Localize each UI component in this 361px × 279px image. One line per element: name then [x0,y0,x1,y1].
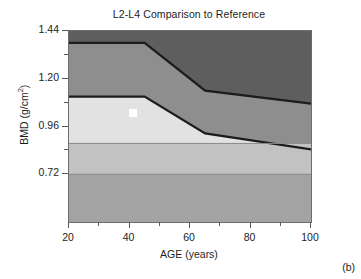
x-tick-minor [280,222,281,226]
chart-title: L2-L4 Comparison to Reference [68,8,310,20]
y-tick-major [62,30,68,31]
x-tick-major [250,222,251,228]
y-axis-title-superscript: 2 [16,88,25,92]
x-tick-label: 100 [295,231,325,243]
y-axis-title-main: BMD (g/cm [18,92,30,145]
x-tick-label: 20 [53,231,83,243]
x-tick-minor [159,222,160,226]
x-tick-label: 40 [114,231,144,243]
x-tick-major [310,222,311,228]
patient-measurement-marker[interactable] [129,109,137,117]
x-tick-minor [219,222,220,226]
reference-band-osteoporosis [69,174,311,222]
x-tick-major [189,222,190,228]
reference-band-osteopenia [69,143,311,174]
y-tick-minor [64,102,68,103]
reference-bands-svg [69,31,311,222]
plot-area [68,30,312,223]
x-tick-major [129,222,130,228]
y-tick-major [62,126,68,127]
y-tick-minor [64,54,68,55]
figure-caption: (b) [342,261,355,273]
y-axis-title-tail: ) [18,85,30,89]
x-axis-title: AGE (years) [68,248,310,260]
y-tick-major [62,78,68,79]
x-tick-minor [98,222,99,226]
x-tick-major [68,222,69,228]
x-tick-label: 60 [174,231,204,243]
y-tick-minor [64,149,68,150]
y-axis-title: BMD (g/cm2) [16,40,30,190]
figure-container: L2-L4 Comparison to Reference 0.720.961.… [0,0,361,279]
x-tick-label: 80 [235,231,265,243]
y-tick-label: 1.44 [19,24,59,34]
y-tick-major [62,173,68,174]
